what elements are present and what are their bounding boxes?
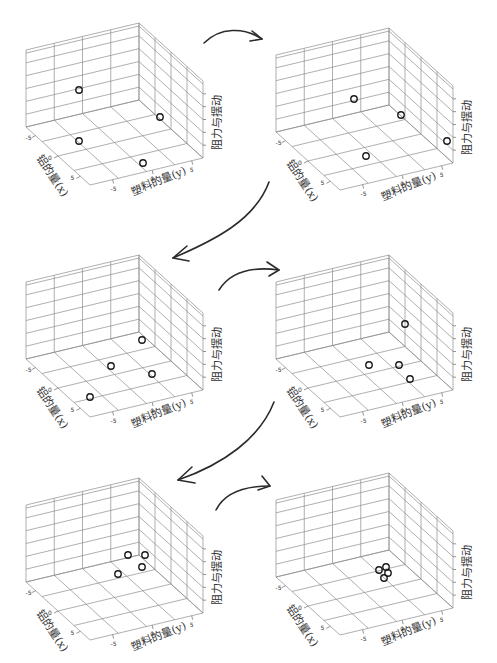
y-tick-label: -5 bbox=[111, 417, 117, 424]
x-axis-label: 铝的量(x) bbox=[284, 384, 322, 431]
y-tick-label: 5 bbox=[440, 171, 444, 178]
z-axis-label: 阻力与摆动 bbox=[460, 100, 474, 155]
x-axis-label: 铝的量(x) bbox=[34, 152, 72, 199]
x-tick-label: -5 bbox=[276, 366, 282, 373]
data-point bbox=[108, 363, 114, 369]
data-point bbox=[76, 87, 82, 93]
data-point bbox=[444, 138, 450, 144]
z-axis-label: 阻力与摆动 bbox=[210, 550, 224, 605]
data-point bbox=[351, 96, 357, 102]
y-tick-label: 5 bbox=[440, 398, 444, 405]
z-axis-label: 阻力与摆动 bbox=[210, 327, 224, 382]
curved-arrow-icon bbox=[168, 400, 288, 490]
x-tick-label: -5 bbox=[276, 584, 282, 591]
x-axis-label: 铝的量(x) bbox=[284, 157, 322, 204]
y-tick-label: -5 bbox=[111, 185, 117, 192]
data-point bbox=[125, 552, 131, 558]
curved-arrow-icon bbox=[165, 180, 285, 270]
x-tick-label: 5 bbox=[320, 179, 324, 186]
data-point bbox=[139, 564, 145, 570]
grid-lines bbox=[26, 255, 203, 417]
y-tick-label: -5 bbox=[361, 190, 367, 197]
y-tick-label: 5 bbox=[190, 621, 194, 628]
curved-arrow-icon bbox=[215, 262, 295, 302]
z-axis-label: 阻力与摆动 bbox=[460, 327, 474, 382]
grid-lines bbox=[26, 478, 203, 640]
x-tick-label: -5 bbox=[26, 589, 32, 596]
x-tick-label: 5 bbox=[320, 406, 324, 413]
data-point bbox=[398, 112, 404, 118]
data-point bbox=[115, 571, 121, 577]
grid-lines bbox=[276, 473, 453, 635]
data-point bbox=[366, 362, 372, 368]
y-tick-label: -5 bbox=[111, 640, 117, 647]
x-tick-label: -5 bbox=[276, 139, 282, 146]
x-tick-label: 5 bbox=[70, 406, 74, 413]
data-point bbox=[363, 153, 369, 159]
scatter-3d-plot: -505-505铝的量(x)塑料的量(y)阻力与摆动 bbox=[250, 5, 490, 220]
x-tick-label: -5 bbox=[26, 366, 32, 373]
grid-lines bbox=[276, 28, 453, 190]
data-point bbox=[407, 376, 413, 382]
data-point bbox=[87, 394, 93, 400]
x-axis-label: 铝的量(x) bbox=[284, 602, 322, 649]
x-tick-label: 5 bbox=[70, 174, 74, 181]
x-tick-label: 5 bbox=[70, 629, 74, 636]
data-point bbox=[396, 362, 402, 368]
curved-arrow-icon bbox=[200, 25, 280, 115]
x-axis-label: 铝的量(x) bbox=[34, 384, 72, 431]
x-tick-label: 5 bbox=[320, 624, 324, 631]
x-axis-label: 铝的量(x) bbox=[34, 607, 72, 654]
grid-lines bbox=[276, 255, 453, 417]
y-tick-label: -5 bbox=[361, 417, 367, 424]
data-point bbox=[142, 552, 148, 558]
z-axis-label: 阻力与摆动 bbox=[460, 545, 474, 600]
grid-lines bbox=[26, 23, 203, 185]
y-tick-label: 5 bbox=[440, 616, 444, 623]
y-tick-label: 5 bbox=[190, 166, 194, 173]
scatter-panel: -505-505铝的量(x)塑料的量(y)阻力与摆动 bbox=[250, 5, 490, 220]
x-tick-label: -5 bbox=[26, 134, 32, 141]
y-tick-label: -5 bbox=[361, 635, 367, 642]
curved-arrow-icon bbox=[212, 480, 292, 520]
data-point bbox=[140, 160, 146, 166]
data-point bbox=[139, 337, 145, 343]
